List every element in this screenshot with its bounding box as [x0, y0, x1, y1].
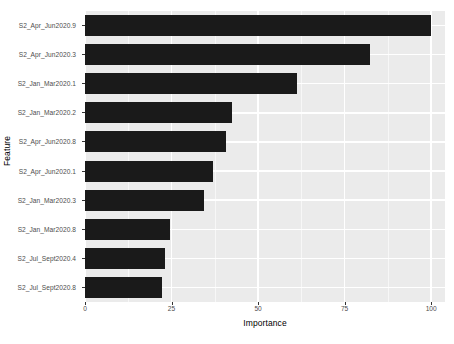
y-axis-tick-label-text: S2_Jul_Sept2020.4 [18, 255, 76, 262]
y-axis-tick-label: S2_Apr_Jun2020.9 [14, 11, 79, 40]
bar-chart: Feature S2_Apr_Jun2020.9S2_Apr_Jun2020.3… [0, 0, 454, 344]
y-axis-tick-label: S2_Apr_Jun2020.3 [14, 40, 79, 69]
bar [85, 102, 232, 123]
y-axis-tick-label: S2_Jan_Mar2020.8 [14, 215, 79, 244]
y-axis-tick-label-text: S2_Jan_Mar2020.8 [18, 226, 76, 233]
bar [85, 73, 297, 94]
y-axis-tick-label-text: S2_Apr_Jun2020.1 [19, 168, 76, 175]
y-axis-tick-label: S2_Jan_Mar2020.3 [14, 186, 79, 215]
y-axis-tick-label: S2_Apr_Jun2020.1 [14, 156, 79, 185]
y-axis-tick-labels: S2_Apr_Jun2020.9S2_Apr_Jun2020.3S2_Jan_M… [14, 11, 79, 302]
x-axis-tick-label: 0 [83, 305, 87, 312]
y-axis-tick-label: S2_Jan_Mar2020.1 [14, 69, 79, 98]
x-axis-title: Importance [85, 318, 445, 328]
bar [85, 15, 431, 36]
y-axis-tick-label-text: S2_Apr_Jun2020.9 [19, 22, 76, 29]
y-axis-tick-label: S2_Jul_Sept2020.4 [14, 244, 79, 273]
y-axis-tick-label-text: S2_Apr_Jun2020.8 [19, 138, 76, 145]
y-axis-tick-label: S2_Apr_Jun2020.8 [14, 127, 79, 156]
bar [85, 131, 226, 152]
y-axis-tick-label: S2_Jul_Sept2020.8 [14, 273, 79, 302]
bar [85, 277, 162, 298]
x-axis-tick-label: 25 [168, 305, 175, 312]
y-axis-tick-label: S2_Jan_Mar2020.2 [14, 98, 79, 127]
bar [85, 161, 213, 182]
plot-panel [85, 11, 445, 302]
y-axis-title: Feature [0, 0, 14, 302]
y-axis-title-text: Feature [2, 136, 12, 166]
y-axis-tick-label-text: S2_Jan_Mar2020.3 [18, 197, 76, 204]
x-axis-tick-labels: 0255075100 [85, 305, 445, 317]
y-axis-tick-label-text: S2_Jan_Mar2020.1 [18, 80, 76, 87]
y-axis-tick-label-text: S2_Jul_Sept2020.8 [18, 284, 76, 291]
bar [85, 44, 370, 65]
y-axis-tick-label-text: S2_Apr_Jun2020.3 [19, 51, 76, 58]
bar [85, 248, 165, 269]
y-axis-tick-label-text: S2_Jan_Mar2020.2 [18, 109, 76, 116]
bar [85, 219, 170, 240]
x-axis-tick-label: 50 [254, 305, 261, 312]
bar [85, 190, 204, 211]
bars-layer [85, 11, 445, 302]
x-axis-tick-label: 100 [426, 305, 437, 312]
x-axis-tick-label: 75 [341, 305, 348, 312]
